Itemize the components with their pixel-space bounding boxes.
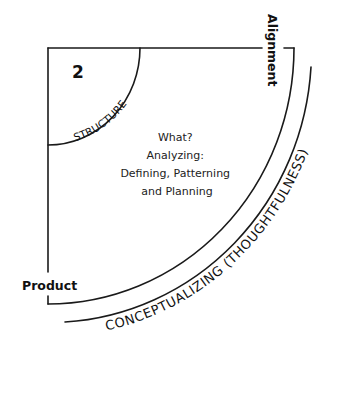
- alignment-label: Alignment: [265, 14, 280, 86]
- center-text: What? Analyzing: Defining, Patterning an…: [120, 131, 233, 198]
- product-label: Product: [22, 278, 77, 293]
- center-text-line4: and Planning: [141, 185, 213, 198]
- center-text-line2: Analyzing:: [147, 149, 204, 162]
- structure-label: STRUCTURE: [72, 98, 129, 143]
- quadrant-diagram: 2 STRUCTURE What? Analyzing: Defining, P…: [0, 0, 345, 410]
- quadrant-number: 2: [72, 62, 84, 82]
- center-text-line3: Defining, Patterning: [120, 167, 230, 180]
- center-text-line1: What?: [158, 131, 193, 144]
